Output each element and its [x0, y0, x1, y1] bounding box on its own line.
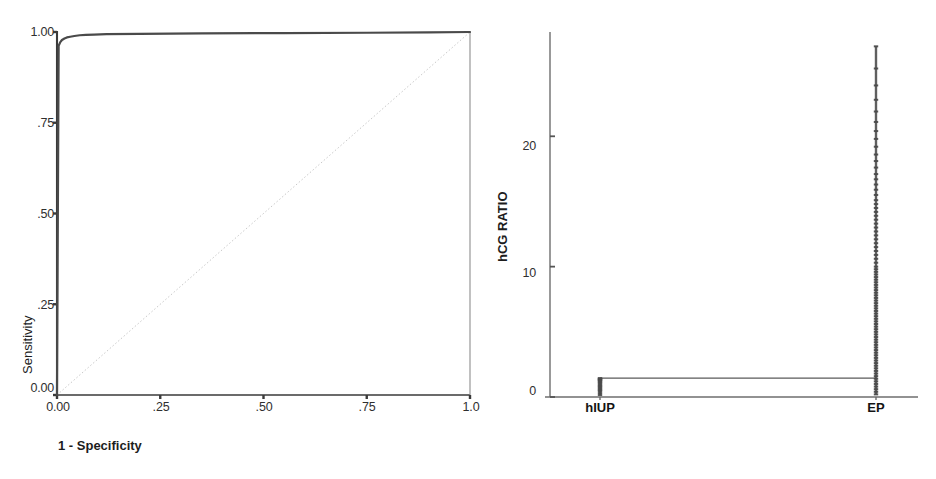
- roc-reference-diagonal: [57, 32, 470, 395]
- hcg-plot-area: [468, 0, 936, 479]
- dot-series-ep: [874, 46, 878, 394]
- roc-plot-area: [0, 0, 468, 479]
- hcg-dotplot-panel: 20 10 0 hCG RATIO hIUP EP: [468, 0, 936, 479]
- roc-chart-panel: 1.00 .75 .50 .25 0.00 0.00 .25 .50 .75 1…: [0, 0, 468, 479]
- figure-canvas: 1.00 .75 .50 .25 0.00 0.00 .25 .50 .75 1…: [0, 0, 936, 479]
- dot-series-hiup: [598, 378, 602, 395]
